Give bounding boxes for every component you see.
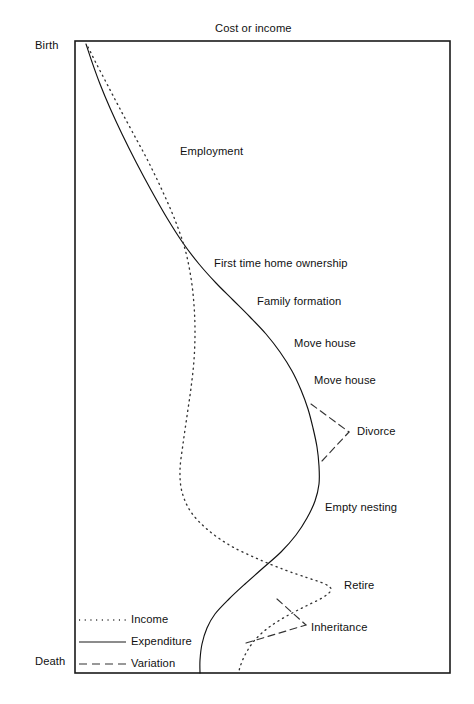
annotation-inheritance: Inheritance [311, 621, 367, 634]
annotation-first-time-home-ownership: First time home ownership [214, 257, 348, 270]
variation-line-divorce-2 [322, 432, 349, 461]
plot-frame [75, 41, 450, 673]
annotation-retire: Retire [344, 579, 374, 592]
annotation-move-house-second: Move house [314, 374, 376, 387]
legend-label-variation: Variation [131, 657, 175, 670]
annotation-empty-nesting: Empty nesting [325, 501, 397, 514]
annotation-move-house-first: Move house [294, 337, 356, 350]
variation-line-divorce-1 [311, 404, 349, 432]
chart-title: Cost or income [215, 22, 292, 35]
axis-label-death: Death [35, 655, 65, 668]
variation-line-inheritance-2 [246, 625, 306, 643]
annotation-family-formation: Family formation [257, 295, 341, 308]
life-cycle-cost-income-chart: Cost or income Birth Death Employment Fi… [0, 0, 474, 704]
legend-label-income: Income [131, 613, 168, 626]
variation-lines-group [246, 404, 349, 643]
expenditure-curve [86, 44, 319, 673]
legend-label-expenditure: Expenditure [131, 635, 192, 648]
income-curve [88, 47, 331, 673]
annotation-divorce: Divorce [357, 425, 396, 438]
chart-canvas [0, 0, 474, 704]
axis-label-birth: Birth [35, 39, 59, 52]
annotation-employment: Employment [180, 145, 243, 158]
variation-line-inheritance-1 [277, 599, 306, 625]
